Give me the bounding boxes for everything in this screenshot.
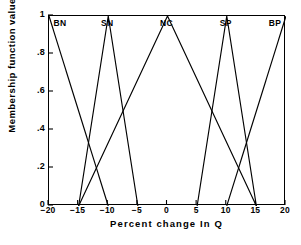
x-tick-label: 20 [280,205,290,215]
series-line-sn [79,16,138,206]
y-axis-title: Membership function value [6,0,17,151]
series-label-sp: SP [220,18,232,28]
y-tick-label: .8 [37,47,45,57]
x-tick-label: 5 [194,205,199,215]
series-label-bp: BP [269,18,282,28]
x-tick-label: −15 [70,205,85,215]
y-tick-label: .2 [37,161,45,171]
series-label-sn: SN [101,18,114,28]
y-tick-label: .4 [37,123,45,133]
x-tick-label: −5 [132,205,142,215]
series-line-bn [49,16,108,206]
series-label-bn: BN [53,18,66,28]
y-tick-label: .6 [37,85,45,95]
x-axis-title: Percent change In Q [48,218,285,229]
series-line-bp [227,16,286,206]
membership-function-chart: Membership function value Percent change… [0,0,301,245]
series-line-nc [79,16,257,206]
plot-area [48,15,285,205]
x-tick-label: 10 [221,205,231,215]
plot-lines [49,16,286,206]
x-tick-label: 15 [250,205,260,215]
x-tick-label: −10 [100,205,115,215]
series-line-sp [197,16,256,206]
x-tick-label: −20 [40,205,55,215]
y-tick-label: 1 [40,9,45,19]
x-tick-label: 0 [164,205,169,215]
series-label-nc: NC [160,18,173,28]
